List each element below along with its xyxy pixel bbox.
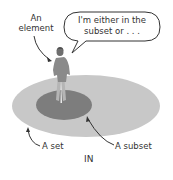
speech-bubble-text: I'm either in the subset or . . . <box>68 15 156 37</box>
speech-line2: subset or . . . <box>68 26 156 37</box>
element-label-line1: An <box>18 13 54 23</box>
subset-label: A subset <box>115 141 152 151</box>
caption-in: IN <box>84 154 93 164</box>
element-label: An element <box>18 13 54 33</box>
element-label-line2: element <box>18 23 54 33</box>
set-label: A set <box>42 141 64 151</box>
speech-line1: I'm either in the <box>68 15 156 26</box>
element-pointer-arrow <box>34 36 50 60</box>
set-pointer-arrow <box>28 130 40 146</box>
set-diagram: An element I'm either in the subset or .… <box>0 0 173 180</box>
